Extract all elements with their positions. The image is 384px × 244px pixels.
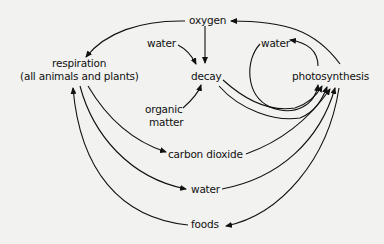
label-organic: organic	[145, 103, 183, 115]
label-foods: foods	[191, 218, 219, 230]
label-respiration-subtitle: (all animals and plants)	[20, 70, 139, 82]
label-respiration: respiration	[52, 57, 106, 69]
nutrient-cycle-diagram: oxygen water respiration (all animals an…	[0, 0, 384, 244]
arrows-layer	[0, 0, 384, 244]
label-photosynthesis: photosynthesis	[292, 70, 369, 82]
label-carbon-dioxide: carbon dioxide	[168, 148, 243, 160]
label-water-cycle: water	[261, 37, 290, 49]
arrow-respiration-to-water	[80, 86, 186, 189]
arrow-organic-to-decay	[183, 85, 201, 108]
arrow-decay-to-photosynthesis-2	[219, 86, 327, 119]
label-oxygen: oxygen	[189, 14, 226, 26]
arrow-water-to-decay	[178, 45, 196, 64]
label-water-bottom: water	[191, 183, 220, 195]
label-decay: decay	[191, 70, 222, 82]
label-water-to-decay: water	[147, 37, 176, 49]
arrow-photosynthesis-to-water	[290, 40, 318, 66]
label-matter: matter	[149, 116, 183, 128]
